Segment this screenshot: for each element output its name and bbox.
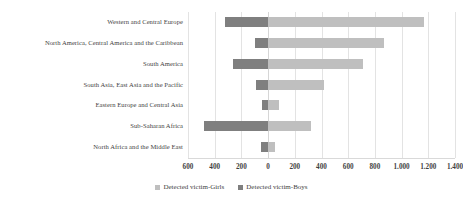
x-tick-label: 400 [316,161,327,173]
category-label: South Asia, East Asia and the Pacific [0,75,183,96]
bar-row [188,75,455,96]
bar-segment-boys [204,121,268,131]
x-tick-label: 800 [370,161,381,173]
bar-segment-girls [268,17,424,27]
bar-rows [188,12,455,158]
x-axis-tick-labels: 60040020002004006008001.0001.2001.400 [0,161,463,173]
bar-segment-girls [268,142,275,152]
x-tick-label: 1.400 [447,161,463,173]
category-label: North America, Central America and the C… [0,33,183,54]
legend-item[interactable]: Detected victim-Girls [155,183,224,191]
bar-segment-boys [233,59,268,69]
bar-segment-girls [268,100,279,110]
legend-swatch-icon [155,185,160,190]
bar-row [188,12,455,33]
diverging-bar-chart: Western and Central EuropeNorth America,… [0,0,463,202]
bar-row [188,33,455,54]
bar-segment-boys [255,38,268,48]
legend-label: Detected victim-Boys [246,183,307,191]
bar-row [188,137,455,158]
bar-segment-girls [268,121,311,131]
gridline [455,12,456,158]
bar-segment-boys [261,142,268,152]
x-tick-label: 600 [183,161,194,173]
bar-row [188,95,455,116]
bar-segment-boys [225,17,268,27]
x-tick-label: 600 [343,161,354,173]
plot-area [188,12,455,158]
category-axis-labels: Western and Central EuropeNorth America,… [0,12,183,158]
x-tick-label: 0 [266,161,270,173]
x-tick-label: 200 [236,161,247,173]
bar-segment-girls [268,38,384,48]
bar-segment-girls [268,80,324,90]
bar-segment-girls [268,59,363,69]
x-axis-line [188,158,455,159]
bar-row [188,54,455,75]
legend-item[interactable]: Detected victim-Boys [238,183,307,191]
category-label: North Africa and the Middle East [0,137,183,158]
legend-swatch-icon [238,185,243,190]
legend-label: Detected victim-Girls [163,183,224,191]
category-label: Eastern Europe and Central Asia [0,95,183,116]
category-label: South America [0,54,183,75]
x-tick-label: 1.000 [394,161,410,173]
x-tick-label: 400 [209,161,220,173]
category-label: Sub-Saharan Africa [0,116,183,137]
bar-row [188,116,455,137]
bar-segment-boys [256,80,268,90]
chart-legend: Detected victim-GirlsDetected victim-Boy… [0,179,463,195]
x-tick-label: 1.200 [420,161,436,173]
category-label: Western and Central Europe [0,12,183,33]
x-tick-label: 200 [289,161,300,173]
